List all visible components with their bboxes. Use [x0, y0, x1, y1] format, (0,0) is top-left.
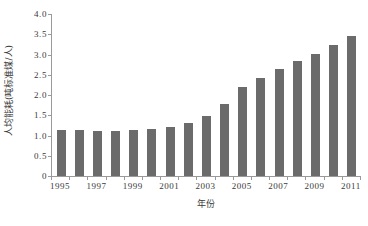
bar	[57, 130, 66, 176]
bar-slot	[107, 14, 125, 176]
bar	[347, 36, 356, 176]
x-axis-tickmark	[324, 176, 325, 180]
x-axis-tickmark	[142, 176, 143, 180]
x-axis-tickmark	[251, 176, 252, 180]
y-axis-tick-labels: 4.03.53.02.52.01.51.00.50	[18, 8, 50, 184]
y-axis-tickmark	[48, 156, 52, 157]
x-axis-tickmark	[233, 176, 234, 180]
x-axis-tickmark	[124, 176, 125, 180]
bar-slot	[88, 14, 106, 176]
y-axis-tickmark	[48, 34, 52, 35]
y-axis-tick-label: 0	[42, 172, 47, 181]
bar	[220, 104, 229, 176]
x-axis-tick-label: 1997	[86, 181, 106, 192]
x-axis-tick-label: 2005	[232, 181, 252, 192]
x-axis-tickmark	[360, 176, 361, 180]
y-axis-tick-label: 2.0	[34, 91, 47, 100]
x-axis-tickmark	[342, 176, 343, 180]
bar-slot	[216, 14, 234, 176]
bar	[147, 129, 156, 176]
x-axis-tickmark	[160, 176, 161, 180]
y-axis-tickmark	[48, 115, 52, 116]
x-axis-tick-label: 2007	[268, 181, 288, 192]
bar-slot	[270, 14, 288, 176]
bar-slot	[234, 14, 252, 176]
x-axis-tickmark	[196, 176, 197, 180]
x-axis-tick-labels: 199519971999200120032005200720092011	[51, 181, 360, 195]
y-axis-tick-label: 0.5	[34, 151, 47, 160]
bar	[311, 54, 320, 176]
x-axis-tickmarks	[51, 176, 360, 180]
x-axis-tickmark	[87, 176, 88, 180]
y-axis-tick-label: 2.5	[34, 70, 47, 79]
bar	[238, 87, 247, 176]
bar-slot	[52, 14, 70, 176]
bar-slot	[325, 14, 343, 176]
bar	[75, 130, 84, 176]
bar-slot	[143, 14, 161, 176]
bar-chart: 人均能耗(吨标准煤/人) 4.03.53.02.52.01.51.00.50 1…	[0, 0, 368, 226]
y-axis-title: 人均能耗(吨标准煤/人)	[0, 0, 18, 180]
x-axis-tick-label: 2001	[159, 181, 179, 192]
x-axis-tickmark	[178, 176, 179, 180]
bar	[111, 131, 120, 176]
x-axis-tickmark	[269, 176, 270, 180]
y-axis-title-label: 人均能耗(吨标准煤/人)	[3, 44, 16, 135]
y-axis-tick-label: 3.0	[34, 50, 47, 59]
y-axis-tickmark	[48, 136, 52, 137]
bars-layer	[52, 14, 361, 176]
y-axis-tickmark	[48, 95, 52, 96]
bar	[293, 61, 302, 176]
bar	[184, 123, 193, 176]
y-axis-tick-label: 1.0	[34, 131, 47, 140]
bar-slot	[179, 14, 197, 176]
x-axis-tickmark	[106, 176, 107, 180]
x-axis-tickmark	[305, 176, 306, 180]
bar	[93, 131, 102, 176]
x-axis-tick-label: 1999	[123, 181, 143, 192]
y-axis-tick-label: 3.5	[34, 30, 47, 39]
x-axis-tickmark	[69, 176, 70, 180]
x-axis-tick-label: 2003	[196, 181, 216, 192]
bar	[256, 78, 265, 176]
bar-slot	[70, 14, 88, 176]
bar-slot	[306, 14, 324, 176]
plot-area	[51, 14, 361, 177]
x-axis-tick-label: 1995	[50, 181, 70, 192]
bar-slot	[161, 14, 179, 176]
x-axis-tick-label: 2009	[305, 181, 325, 192]
bar-slot	[197, 14, 215, 176]
bar	[166, 127, 175, 176]
x-axis-tickmark	[51, 176, 52, 180]
y-axis-tickmark	[48, 75, 52, 76]
bar-slot	[125, 14, 143, 176]
bar-slot	[252, 14, 270, 176]
bar	[329, 45, 338, 176]
bar	[129, 130, 138, 176]
x-axis-title: 年份	[51, 197, 360, 210]
y-axis-tick-label: 1.5	[34, 111, 47, 120]
bar	[202, 116, 211, 176]
y-axis-tickmark	[48, 55, 52, 56]
bar-slot	[288, 14, 306, 176]
x-axis-tick-label: 2011	[341, 181, 361, 192]
y-axis-tickmark	[48, 14, 52, 15]
x-axis-tickmark	[215, 176, 216, 180]
bar-slot	[343, 14, 361, 176]
x-axis-tickmark	[287, 176, 288, 180]
y-axis-tick-label: 4.0	[34, 10, 47, 19]
bar	[275, 69, 284, 176]
